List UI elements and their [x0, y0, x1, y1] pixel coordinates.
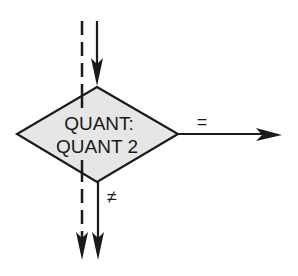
decision-label-line2: QUANT 2 — [56, 136, 138, 157]
decision-label-line1: QUANT: — [64, 113, 134, 134]
equal-branch-label: = — [197, 112, 208, 132]
decision-diamond[interactable] — [17, 87, 178, 182]
flowchart-svg: QUANT: QUANT 2 = ≠ — [0, 0, 298, 276]
flowchart-canvas: QUANT: QUANT 2 = ≠ — [0, 0, 298, 276]
not-equal-branch-label: ≠ — [107, 187, 117, 207]
